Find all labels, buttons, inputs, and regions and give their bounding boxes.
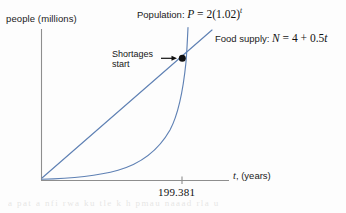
population-equation: P = 2(1.02)t bbox=[187, 8, 242, 20]
food-supply-line-label: Food supply: N = 4 + 0.5t bbox=[215, 32, 328, 45]
food-equation: N = 4 + 0.5t bbox=[272, 32, 328, 44]
population-label-prefix: Population: bbox=[137, 9, 187, 20]
arrow-right-icon bbox=[161, 56, 177, 61]
population-food-supply-figure: people (millions) t, (years) 199.381 Pop… bbox=[0, 0, 346, 213]
shortages-start-annotation: Shortagesstart bbox=[112, 49, 153, 70]
y-axis-label: people (millions) bbox=[6, 14, 77, 25]
intersection-point-marker bbox=[179, 55, 186, 62]
population-base: (1.02) bbox=[212, 8, 240, 20]
food-label-prefix: Food supply: bbox=[215, 33, 272, 44]
population-equals: = bbox=[194, 8, 206, 20]
population-curve-label: Population: P = 2(1.02)t bbox=[137, 8, 242, 21]
shortages-line-2: start bbox=[112, 59, 153, 69]
x-axis-unit: , (years) bbox=[236, 170, 271, 181]
food-lhs: N bbox=[272, 32, 280, 44]
x-tick-label-199: 199.381 bbox=[158, 186, 195, 199]
food-rhs-var: t bbox=[324, 32, 327, 44]
food-equals: = bbox=[280, 32, 292, 44]
population-exponent: t bbox=[240, 6, 242, 15]
food-rhs-const: 4 + 0.5 bbox=[292, 32, 324, 44]
shortages-line-1: Shortages bbox=[112, 49, 153, 59]
scan-ghost-text: a pat a nfi rwa ku tle k h pmau naaad rl… bbox=[0, 198, 346, 213]
x-axis-label: t, (years) bbox=[233, 170, 271, 182]
